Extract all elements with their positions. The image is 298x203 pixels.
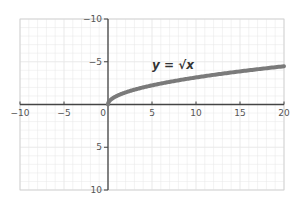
x-tick-label: −5: [57, 108, 70, 118]
y-tick-label: 5: [96, 142, 102, 152]
y-tick-label: 10: [91, 185, 103, 195]
x-tick-label: 5: [149, 108, 155, 118]
sqrt-function-chart: −10−505101520105−5−10 y = √x: [0, 0, 298, 203]
y-tick-label: −5: [89, 57, 102, 67]
y-tick-label: −10: [83, 14, 102, 24]
x-tick-label: 10: [190, 108, 202, 118]
x-tick-label: 0: [100, 108, 106, 118]
equation-label: y = √x: [152, 58, 195, 72]
x-tick-label: 15: [234, 108, 245, 118]
x-tick-label: 20: [278, 108, 290, 118]
x-tick-label: −10: [11, 108, 30, 118]
